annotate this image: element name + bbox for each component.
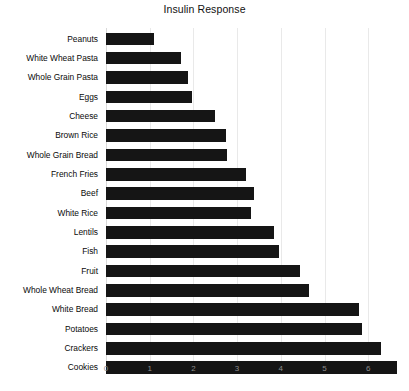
bar-category-label: Fruit bbox=[0, 265, 98, 278]
x-tick-6: 6 bbox=[356, 364, 380, 373]
bar-row[interactable]: Eggs bbox=[0, 91, 409, 110]
bar-category-label: White Wheat Pasta bbox=[0, 52, 98, 65]
bar-category-label: Eggs bbox=[0, 91, 98, 104]
bar-row[interactable]: Whole Grain Bread bbox=[0, 149, 409, 168]
x-tick-2: 2 bbox=[181, 364, 205, 373]
bar[interactable] bbox=[106, 187, 254, 200]
bar[interactable] bbox=[106, 91, 192, 104]
bar[interactable] bbox=[106, 226, 274, 239]
x-tick-4: 4 bbox=[269, 364, 293, 373]
bar[interactable] bbox=[106, 207, 251, 220]
bar-category-label: Fish bbox=[0, 245, 98, 258]
x-tick-1: 1 bbox=[138, 364, 162, 373]
bar-row[interactable]: French Fries bbox=[0, 168, 409, 187]
bar-category-label: White Bread bbox=[0, 303, 98, 316]
bar-category-label: Peanuts bbox=[0, 33, 98, 46]
bar-row[interactable]: White Wheat Pasta bbox=[0, 52, 409, 71]
bar-rows: PeanutsWhite Wheat PastaWhole Grain Past… bbox=[0, 28, 409, 362]
bar-category-label: Whole Wheat Bread bbox=[0, 284, 98, 297]
bar-row[interactable]: Whole Wheat Bread bbox=[0, 284, 409, 303]
bar[interactable] bbox=[106, 168, 246, 181]
bar-row[interactable]: Cheese bbox=[0, 110, 409, 129]
bar[interactable] bbox=[106, 110, 215, 123]
bar-category-label: Whole Grain Pasta bbox=[0, 71, 98, 84]
x-tick-3: 3 bbox=[225, 364, 249, 373]
bar-row[interactable]: Crackers bbox=[0, 342, 409, 361]
chart-title: Insulin Response bbox=[0, 3, 409, 15]
bar[interactable] bbox=[106, 265, 300, 278]
bar-category-label: French Fries bbox=[0, 168, 98, 181]
bar-category-label: Whole Grain Bread bbox=[0, 149, 98, 162]
bar-row[interactable]: White Rice bbox=[0, 207, 409, 226]
bar[interactable] bbox=[106, 129, 226, 142]
bar-row[interactable]: Lentils bbox=[0, 226, 409, 245]
bar[interactable] bbox=[106, 52, 181, 65]
bar[interactable] bbox=[106, 245, 279, 258]
bar-category-label: White Rice bbox=[0, 207, 98, 220]
bar-category-label: Brown Rice bbox=[0, 129, 98, 142]
bar-category-label: Potatoes bbox=[0, 323, 98, 336]
bar-category-label: Lentils bbox=[0, 226, 98, 239]
bar-row[interactable]: Peanuts bbox=[0, 33, 409, 52]
insulin-response-bar-chart: Insulin Response PeanutsWhite Wheat Past… bbox=[0, 0, 409, 391]
bar[interactable] bbox=[106, 342, 381, 355]
bar-row[interactable]: White Bread bbox=[0, 303, 409, 322]
bar-category-label: Crackers bbox=[0, 342, 98, 355]
bar[interactable] bbox=[106, 71, 188, 84]
bar[interactable] bbox=[106, 33, 154, 46]
x-axis-tick-labels: 0123456 bbox=[0, 362, 409, 380]
bar-row[interactable]: Whole Grain Pasta bbox=[0, 71, 409, 90]
bar-category-label: Beef bbox=[0, 187, 98, 200]
bar[interactable] bbox=[106, 284, 309, 297]
x-tick-5: 5 bbox=[313, 364, 337, 373]
bar-row[interactable]: Potatoes bbox=[0, 323, 409, 342]
x-tick-0: 0 bbox=[94, 364, 118, 373]
bar-row[interactable]: Brown Rice bbox=[0, 129, 409, 148]
bar[interactable] bbox=[106, 303, 359, 316]
bar[interactable] bbox=[106, 149, 227, 162]
bar[interactable] bbox=[106, 323, 362, 336]
bar-row[interactable]: Fish bbox=[0, 245, 409, 264]
bar-row[interactable]: Fruit bbox=[0, 265, 409, 284]
bar-category-label: Cheese bbox=[0, 110, 98, 123]
bar-row[interactable]: Beef bbox=[0, 187, 409, 206]
